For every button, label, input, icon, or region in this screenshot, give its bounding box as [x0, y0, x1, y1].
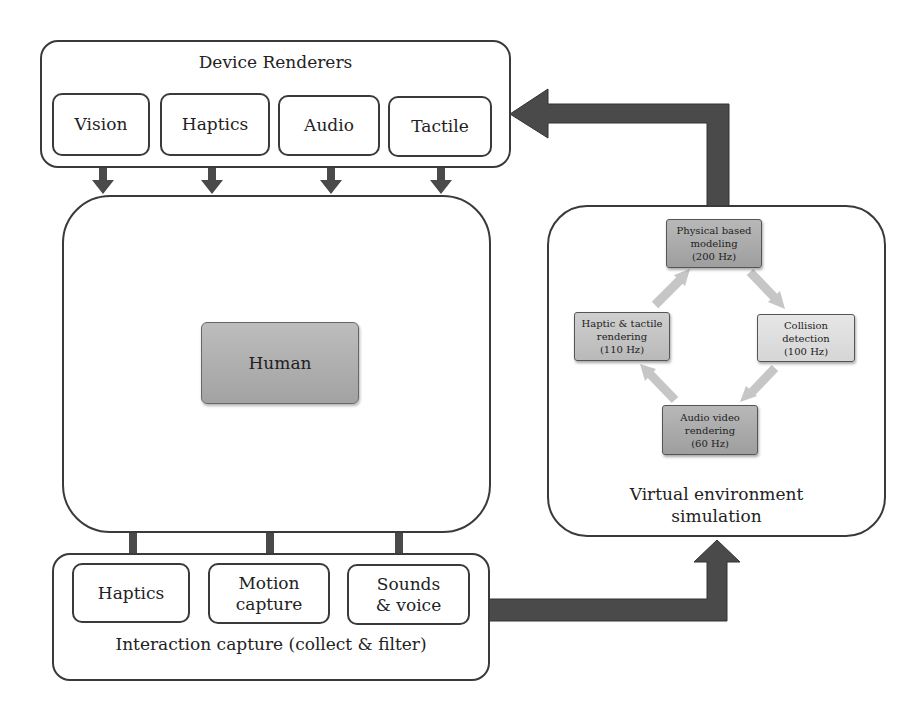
node-collision-detection: Collision detection (100 Hz): [757, 314, 855, 362]
node-audio-video-rendering: Audio video rendering (60 Hz): [662, 405, 758, 455]
virtual-environment-title: Virtual environment simulation: [600, 483, 833, 527]
node-rate: (100 Hz): [784, 345, 828, 358]
node-label: Collision detection: [758, 319, 854, 345]
node-label: Audio video rendering: [663, 411, 757, 437]
node-haptic-tactile-rendering: Haptic & tactile rendering (110 Hz): [574, 312, 670, 361]
node-physical-modeling: Physical based modeling (200 Hz): [666, 219, 762, 268]
node-label: Haptic & tactile rendering: [575, 317, 669, 343]
node-rate: (200 Hz): [692, 250, 736, 263]
node-rate: (110 Hz): [600, 343, 644, 356]
node-rate: (60 Hz): [691, 437, 729, 450]
node-label: Physical based modeling: [667, 224, 761, 250]
